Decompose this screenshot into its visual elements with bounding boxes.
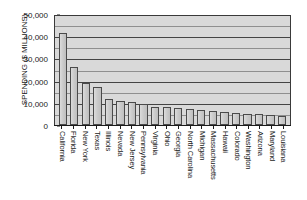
- x-axis-category-label: North Carolina: [186, 131, 195, 178]
- x-axis-category-label: Nevada: [116, 131, 125, 156]
- bar-slot: [265, 16, 277, 125]
- x-axis-label-slot: Virginia: [149, 129, 161, 199]
- x-axis-category-label: Ohio: [162, 131, 171, 146]
- x-axis-category-label: Hawaii: [221, 131, 230, 153]
- bar-slot: [57, 16, 69, 125]
- x-axis-label-slot: Washington: [243, 129, 255, 199]
- y-axis-tick-labels: 50,00040,00030,00020,00010,0000: [8, 11, 48, 129]
- x-axis-category-label: Washington: [244, 131, 253, 169]
- x-axis-category-labels: CaliforniaFloridaNew YorkTexasIllinoisNe…: [54, 129, 291, 199]
- bar[interactable]: [243, 114, 251, 125]
- x-axis-category-label: Virginia: [151, 131, 160, 155]
- x-axis-label-slot: Michigan: [196, 129, 208, 199]
- bar-slot: [92, 16, 104, 125]
- bar-slot: [207, 16, 219, 125]
- bar[interactable]: [186, 109, 194, 125]
- bar-slot: [69, 16, 81, 125]
- bar[interactable]: [105, 99, 113, 125]
- y-axis-tick-label: 40,000: [8, 33, 48, 42]
- x-axis-label-slot: Pennsylvania: [138, 129, 150, 199]
- x-axis-label-slot: Louisiana: [277, 129, 289, 199]
- bar-slot: [149, 16, 161, 125]
- bar[interactable]: [128, 102, 136, 125]
- bar[interactable]: [220, 112, 228, 125]
- bar-slot: [161, 16, 173, 125]
- x-axis-label-slot: Massachusetts: [208, 129, 220, 199]
- bar-slot: [276, 16, 288, 125]
- bar[interactable]: [197, 110, 205, 125]
- x-axis-category-label: Texas: [92, 131, 101, 150]
- bar[interactable]: [278, 116, 286, 125]
- bar-slot: [138, 16, 150, 125]
- x-axis-category-label: Pennsylvania: [139, 131, 148, 174]
- x-axis-category-label: Colorado: [232, 131, 241, 161]
- y-axis-tick-label: 0: [8, 122, 48, 131]
- bar-slot: [219, 16, 231, 125]
- bar-slot: [253, 16, 265, 125]
- bar[interactable]: [232, 113, 240, 125]
- bar[interactable]: [174, 108, 182, 125]
- x-axis-label-slot: California: [56, 129, 68, 199]
- bar[interactable]: [116, 101, 124, 125]
- x-axis-label-slot: Ohio: [161, 129, 173, 199]
- bar-slot: [126, 16, 138, 125]
- x-axis-category-label: Arizona: [255, 131, 264, 156]
- x-axis-label-slot: New York: [79, 129, 91, 199]
- x-axis-label-slot: Georgia: [173, 129, 185, 199]
- bar-slot: [115, 16, 127, 125]
- bar[interactable]: [209, 111, 217, 125]
- y-axis-tick-label: 20,000: [8, 77, 48, 86]
- x-axis-label-slot: North Carolina: [184, 129, 196, 199]
- x-axis-label-slot: Colorado: [231, 129, 243, 199]
- x-axis-label-slot: Arizona: [254, 129, 266, 199]
- x-axis-category-label: Michigan: [197, 131, 206, 160]
- x-axis-category-label: Florida: [69, 131, 78, 153]
- x-axis-category-label: Massachusetts: [209, 131, 218, 180]
- y-axis-tick-label: 50,000: [8, 11, 48, 20]
- x-axis-category-label: Louisiana: [279, 131, 288, 162]
- bar-slot: [230, 16, 242, 125]
- bar[interactable]: [266, 115, 274, 125]
- x-axis-label-slot: Maryland: [266, 129, 278, 199]
- x-axis-category-label: California: [57, 131, 66, 162]
- x-axis-label-slot: Texas: [91, 129, 103, 199]
- bar[interactable]: [93, 87, 101, 125]
- bar-slot: [242, 16, 254, 125]
- bar[interactable]: [163, 107, 171, 125]
- bar[interactable]: [82, 83, 90, 125]
- bar-slot: [103, 16, 115, 125]
- x-axis-category-label: New York: [81, 131, 90, 162]
- x-axis-label-slot: Nevada: [114, 129, 126, 199]
- x-axis-label-slot: Florida: [68, 129, 80, 199]
- bar-chart-figure: SPENDING ($ MILLIONS) 50,00040,00030,000…: [0, 0, 307, 200]
- bars-layer: [55, 16, 290, 125]
- x-axis-label-slot: Hawaii: [219, 129, 231, 199]
- x-axis-category-label: Maryland: [267, 131, 276, 161]
- plot-area: [54, 15, 291, 126]
- bar-slot: [80, 16, 92, 125]
- bar-slot: [196, 16, 208, 125]
- x-axis-category-label: Illinois: [104, 131, 113, 151]
- bar[interactable]: [70, 67, 78, 125]
- y-axis-tick-label: 10,000: [8, 99, 48, 108]
- bar[interactable]: [151, 107, 159, 125]
- x-axis-label-slot: New Jersey: [126, 129, 138, 199]
- x-axis-label-slot: Illinois: [103, 129, 115, 199]
- bar[interactable]: [255, 114, 263, 125]
- bar-slot: [184, 16, 196, 125]
- x-axis-category-label: Georgia: [174, 131, 183, 157]
- y-axis-tick-label: 30,000: [8, 55, 48, 64]
- bar[interactable]: [59, 33, 67, 125]
- bar-slot: [172, 16, 184, 125]
- bar[interactable]: [139, 104, 147, 125]
- x-axis-category-label: New Jersey: [127, 131, 136, 169]
